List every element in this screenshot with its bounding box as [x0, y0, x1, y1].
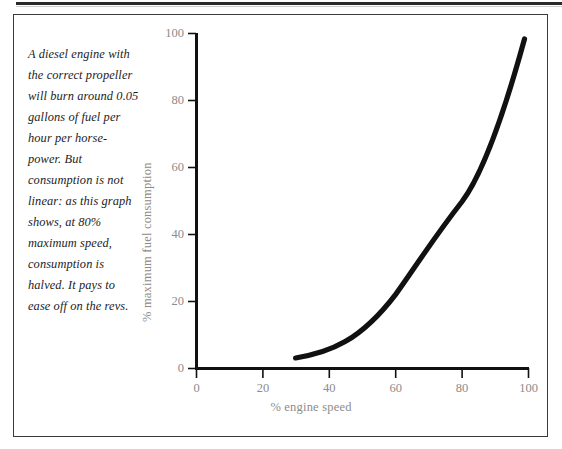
y-tick-label-40: 40	[150, 227, 184, 242]
x-tick-label-40: 40	[312, 381, 346, 396]
y-tick-label-20: 20	[150, 294, 184, 309]
x-tick-label-0: 0	[180, 381, 214, 396]
page-top-rule	[16, 2, 562, 5]
figure-page: A diesel engine with the correct propell…	[0, 0, 562, 449]
y-tick-label-80: 80	[150, 93, 184, 108]
y-tick-label-100: 100	[150, 26, 184, 41]
x-tick-label-60: 60	[379, 381, 413, 396]
x-axis-title: % engine speed	[0, 400, 562, 415]
x-tick-label-20: 20	[246, 381, 280, 396]
x-tick-label-100: 100	[512, 381, 546, 396]
y-tick-label-60: 60	[150, 160, 184, 175]
x-tick-label-80: 80	[445, 381, 479, 396]
y-tick-label-0: 0	[150, 361, 184, 376]
figure-caption: A diesel engine with the correct propell…	[28, 44, 140, 317]
y-axis-title: % maximum fuel consumption	[140, 162, 155, 322]
page-top-rule-thin	[16, 6, 562, 7]
